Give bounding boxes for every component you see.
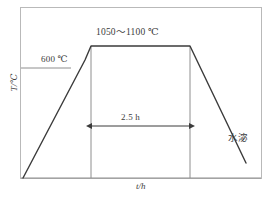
y-axis-label: T/℃ bbox=[10, 68, 19, 98]
heat-treatment-diagram: 1050～1100 ℃ 600 ℃ 2.5 h 水淧 t/h T/℃ bbox=[0, 0, 274, 198]
plateau-temperature-label: 1050～1100 ℃ bbox=[96, 28, 159, 38]
reference-temperature-label: 600 ℃ bbox=[41, 55, 68, 64]
x-axis-label: t/h bbox=[136, 182, 146, 191]
hold-duration-label: 2.5 h bbox=[121, 113, 140, 122]
cooling-method-label: 水淧 bbox=[228, 133, 248, 143]
